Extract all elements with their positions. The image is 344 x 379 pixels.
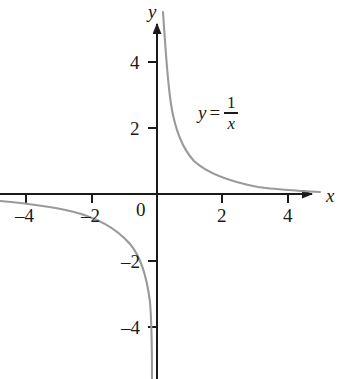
x-tick-label--4: –4 [15, 206, 34, 225]
y-tick-label-4: 4 [130, 53, 140, 72]
curve-branch-negative [0, 201, 152, 379]
plot-canvas [0, 0, 344, 379]
y-tick-label--4: –4 [121, 318, 140, 337]
equation-annotation: y = 1 x [198, 94, 238, 132]
y-axis-label: y [148, 2, 156, 21]
x-tick-label-4: 4 [283, 206, 293, 225]
equation-fraction: 1 x [224, 94, 238, 132]
y-tick-label-2: 2 [130, 119, 140, 138]
equation-numerator: 1 [225, 94, 238, 112]
x-tick-label-0: 0 [136, 200, 146, 219]
x-tick-label-2: 2 [217, 206, 227, 225]
x-tick-label--2: –2 [81, 206, 100, 225]
x-axis-label: x [326, 186, 334, 205]
y-tick-label--2: –2 [121, 252, 140, 271]
equation-equals-sign: = [209, 103, 220, 122]
curve-branch-positive [163, 12, 320, 192]
function-graph-figure: –4 –2 0 2 4 4 2 –2 –4 y x y = 1 x [0, 0, 344, 379]
equation-denominator: x [225, 114, 237, 132]
equation-lhs: y [198, 103, 206, 122]
